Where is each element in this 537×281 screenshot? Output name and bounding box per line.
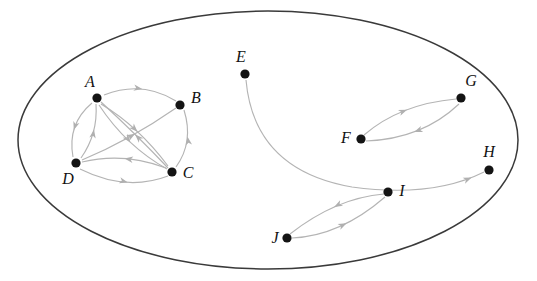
vertex-c[interactable] (167, 167, 176, 176)
universe-boundary-ellipse (18, 11, 518, 269)
vertex-labels-layer: ABCDEFGHIJ (61, 48, 496, 246)
edges-layer (71, 80, 484, 238)
arrowhead-a-to-d (71, 121, 80, 131)
vertex-label-h: H (482, 143, 496, 160)
vertex-label-a: A (84, 73, 95, 90)
vertex-label-i: I (398, 182, 405, 199)
edge-e-to-h (246, 80, 484, 190)
edge-c-to-b (176, 110, 188, 167)
arrowhead-j-to-i (338, 220, 348, 229)
vertex-h[interactable] (484, 165, 493, 174)
vertex-label-c: C (183, 164, 194, 181)
arrowhead-i-to-j (333, 200, 344, 210)
vertex-i[interactable] (383, 187, 392, 196)
edge-a-to-d (72, 103, 92, 157)
edge-a-to-b (104, 89, 176, 101)
vertices-layer (71, 69, 493, 242)
arrowhead-f-to-g (398, 107, 408, 116)
vertex-d[interactable] (71, 158, 80, 167)
arrowhead-e-to-h (463, 175, 473, 184)
edge-c-to-d (82, 158, 166, 168)
vertex-b[interactable] (175, 100, 184, 109)
vertex-label-d: D (61, 170, 74, 187)
vertex-g[interactable] (456, 93, 465, 102)
vertex-label-j: J (271, 229, 279, 246)
vertex-e[interactable] (240, 69, 249, 78)
arrowhead-g-to-f (413, 126, 423, 135)
vertex-label-f: F (340, 129, 351, 146)
vertex-label-b: B (191, 89, 201, 106)
graph-canvas: ABCDEFGHIJ (0, 0, 537, 281)
vertex-j[interactable] (282, 233, 291, 242)
arrowhead-c-to-b (184, 136, 192, 145)
directed-graph-figure: ABCDEFGHIJ (0, 0, 537, 281)
vertex-f[interactable] (356, 134, 365, 143)
vertex-a[interactable] (92, 93, 101, 102)
vertex-label-e: E (235, 48, 246, 65)
vertex-label-g: G (465, 72, 477, 89)
